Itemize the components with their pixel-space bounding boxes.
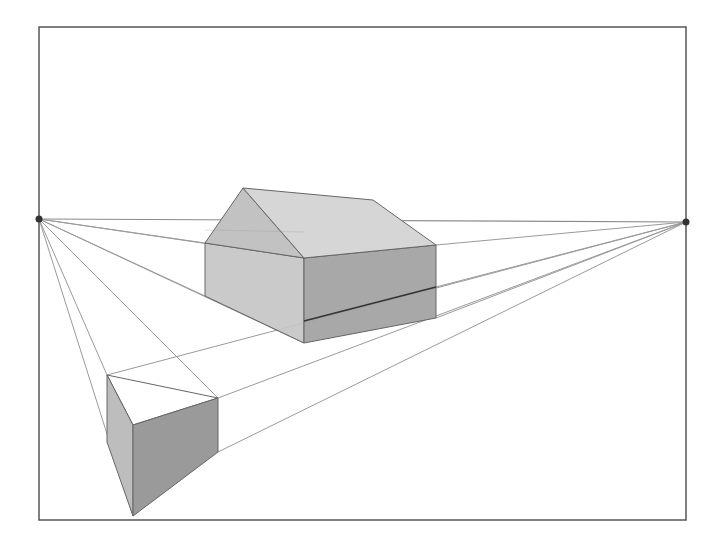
house-right-wall bbox=[304, 245, 436, 343]
box bbox=[107, 375, 218, 516]
vanishing-point-right-dot bbox=[683, 219, 690, 226]
house-left-wall bbox=[205, 243, 304, 343]
vanishing-point-left-dot bbox=[36, 216, 43, 223]
construction-line bbox=[436, 222, 686, 287]
house bbox=[205, 188, 436, 343]
drawing-canvas bbox=[0, 0, 725, 549]
perspective-drawing bbox=[0, 0, 725, 549]
construction-line bbox=[39, 219, 107, 375]
construction-line bbox=[39, 219, 218, 398]
construction-line bbox=[436, 222, 686, 245]
